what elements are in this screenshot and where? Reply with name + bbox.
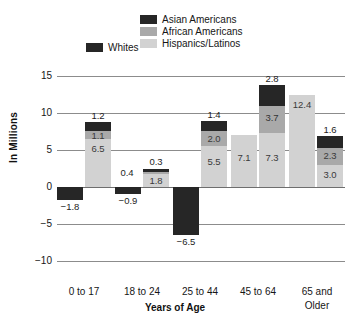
bar-stack-45-to-64: 2.8 3.7 7.3 — [259, 85, 285, 187]
x-tick-25-to-44: 25 to 44 — [173, 286, 227, 297]
bar-whites-0-to-17: −1.8 — [57, 187, 83, 200]
bar-segment-asian-americans — [259, 85, 285, 106]
bar-whites-18-to-24: −0.9 — [115, 187, 141, 194]
legend-swatch-african-americans — [140, 27, 157, 36]
bar-value-hispanics-18-to-24: 1.8 — [143, 176, 169, 186]
x-tick-18-to-24: 18 to 24 — [115, 286, 169, 297]
legend-main: Asian Americans African Americans Hispan… — [140, 14, 243, 50]
bar-segment-asian-americans — [201, 121, 227, 131]
legend-item-hispanics-latinos: Hispanics/Latinos — [140, 38, 243, 49]
bar-value-hispanics-45-to-64: 7.3 — [259, 153, 285, 163]
x-tick-65-and: 65 and — [289, 286, 345, 297]
y-tick-0: 0 — [30, 182, 52, 192]
bar-value-african-0-to-17: 1.1 — [85, 131, 111, 141]
bar-value-asian-65-and-older: 1.6 — [317, 125, 343, 135]
bar-group-25-to-44: −6.5 1.4 2.0 5.5 — [173, 76, 227, 261]
x-axis-title: Years of Age — [0, 302, 350, 313]
bar-segment-asian-americans — [317, 136, 343, 148]
bar-segment-whites — [57, 187, 83, 200]
bar-value-hispanics-solo-65-and-older: 12.4 — [289, 100, 315, 110]
bar-stack-18-to-24: 0.3 0.4 1.8 — [143, 169, 169, 187]
bar-value-asian-25-to-44: 1.4 — [201, 110, 227, 120]
bar-value-african-65-and-older: 2.3 — [317, 151, 343, 161]
bar-value-whites-18-to-24: −0.9 — [115, 196, 141, 206]
y-tick-15: 15 — [30, 71, 52, 81]
gridline-minus10 — [57, 261, 345, 262]
bar-stack-25-to-44: 1.4 2.0 5.5 — [201, 121, 227, 187]
bar-value-hispanics-0-to-17: 6.5 — [85, 144, 111, 154]
bar-value-african-18-to-24: 0.4 — [114, 168, 140, 178]
legend-swatch-asian-americans — [140, 15, 157, 24]
bar-group-0-to-17: −1.8 1.2 1.1 6.5 — [57, 76, 111, 261]
legend-label-hispanics-latinos: Hispanics/Latinos — [162, 39, 240, 49]
bar-stack-0-to-17: 1.2 1.1 6.5 — [85, 122, 111, 187]
bar-value-hispanics-solo-45-to-64: 7.1 — [231, 153, 257, 163]
bar-value-hispanics-65-and-older: 3.0 — [317, 170, 343, 180]
bar-value-asian-45-to-64: 2.8 — [259, 74, 285, 84]
x-tick-0-to-17: 0 to 17 — [57, 286, 111, 297]
y-tick-5: 5 — [30, 145, 52, 155]
bar-value-asian-0-to-17: 1.2 — [85, 111, 111, 121]
bar-value-hispanics-25-to-44: 5.5 — [201, 157, 227, 167]
bar-value-asian-18-to-24: 0.3 — [143, 157, 169, 167]
legend-label-african-americans: African Americans — [162, 27, 243, 37]
bar-group-65-and-older: 12.4 1.6 2.3 3.0 — [289, 76, 345, 261]
y-axis-title: In Millions — [8, 112, 19, 163]
legend-swatch-hispanics-latinos — [140, 39, 157, 48]
legend-swatch-whites — [86, 43, 103, 52]
y-tick-10: 10 — [30, 108, 52, 118]
y-tick-minus10: −10 — [30, 256, 52, 266]
bar-stack-65-and-older: 1.6 2.3 3.0 — [317, 136, 343, 187]
bar-hispanics-solo-45-to-64: 7.1 — [231, 135, 257, 187]
bar-group-18-to-24: −0.9 0.3 0.4 1.8 — [115, 76, 169, 261]
legend-item-whites: Whites — [86, 42, 139, 53]
legend-whites: Whites — [86, 42, 139, 54]
chart-figure: Asian Americans African Americans Hispan… — [0, 0, 350, 328]
bar-segment-whites — [173, 187, 199, 235]
bar-value-whites-25-to-44: −6.5 — [173, 237, 199, 247]
legend-item-african-americans: African Americans — [140, 26, 243, 37]
x-axis-title-text: Years of Age — [145, 302, 205, 313]
bar-value-whites-0-to-17: −1.8 — [57, 202, 83, 212]
plot-area: 15 10 5 0 −5 −10 −1.8 1.2 1.1 6.5 — [57, 76, 345, 261]
bar-whites-25-to-44: −6.5 — [173, 187, 199, 235]
legend-label-asian-americans: Asian Americans — [162, 15, 236, 25]
bar-value-african-25-to-44: 2.0 — [201, 134, 227, 144]
bar-segment-whites — [115, 187, 141, 194]
bar-hispanics-solo-65-and-older: 12.4 — [289, 95, 315, 187]
bar-value-african-45-to-64: 3.7 — [259, 113, 285, 123]
legend-item-asian-americans: Asian Americans — [140, 14, 243, 25]
legend-label-whites: Whites — [108, 43, 139, 53]
x-tick-45-to-64: 45 to 64 — [231, 286, 285, 297]
y-tick-minus5: −5 — [30, 219, 52, 229]
bar-group-45-to-64: 7.1 2.8 3.7 7.3 — [231, 76, 285, 261]
